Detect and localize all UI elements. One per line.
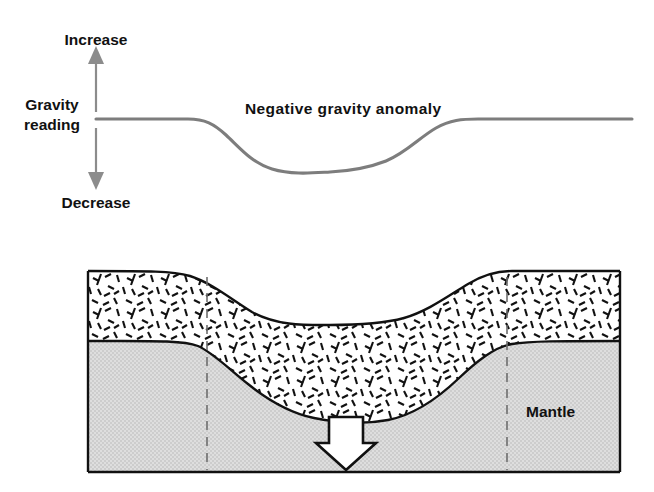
arrow-head-up-icon xyxy=(88,46,104,64)
gravity-reading-curve xyxy=(96,119,632,173)
axis-label-decrease: Decrease xyxy=(62,194,131,211)
lower-cross-section-panel: Mantle xyxy=(86,265,624,477)
upper-gravity-panel: Increase Decrease Gravity reading Negati… xyxy=(24,31,632,211)
axis-label-gravity: Gravity xyxy=(25,96,79,113)
gravity-anomaly-figure: Increase Decrease Gravity reading Negati… xyxy=(0,0,654,492)
figure-svg: Increase Decrease Gravity reading Negati… xyxy=(0,0,654,492)
arrow-head-down-icon xyxy=(88,172,104,190)
mantle-label: Mantle xyxy=(526,403,575,420)
curve-annotation-negative-gravity-anomaly: Negative gravity anomaly xyxy=(245,100,442,117)
axis-label-increase: Increase xyxy=(65,31,128,48)
axis-label-reading: reading xyxy=(24,116,80,133)
